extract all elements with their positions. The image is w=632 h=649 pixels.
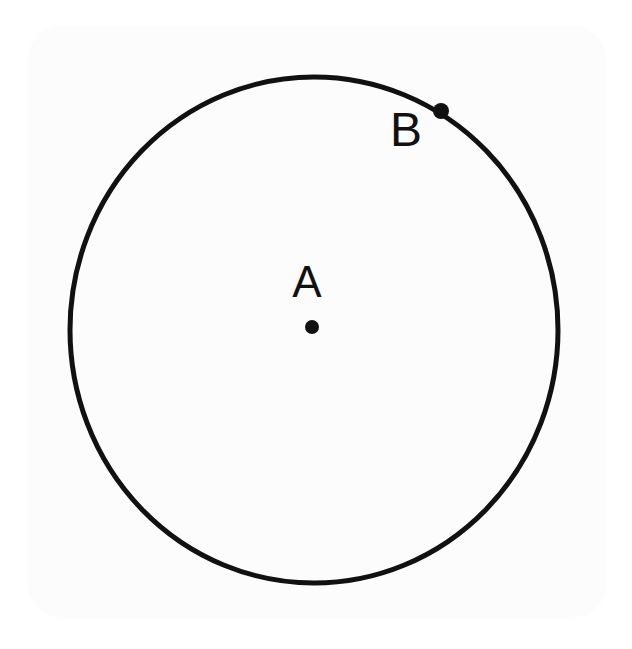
figure-page: A B <box>0 0 632 649</box>
label-b: B <box>390 103 422 156</box>
label-a: A <box>292 257 322 306</box>
center-point-A <box>305 320 319 334</box>
circle-diagram: A B <box>0 0 632 649</box>
circumference-point-B <box>433 103 449 119</box>
